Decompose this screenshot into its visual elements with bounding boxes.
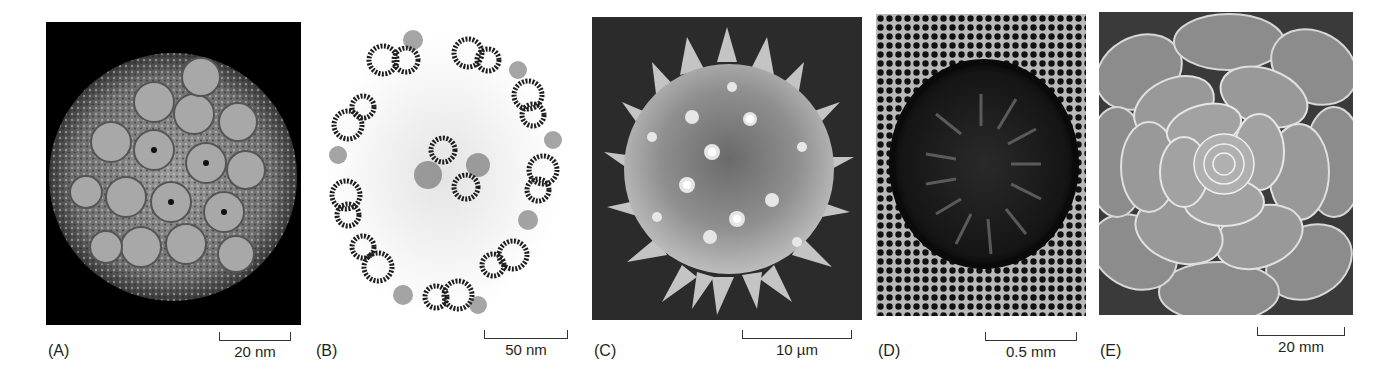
scale-bar-text: 20 mm bbox=[1257, 338, 1345, 355]
panel-c-label: (C) bbox=[594, 342, 616, 360]
scale-bar-line bbox=[219, 332, 291, 341]
panel-a-label: (A) bbox=[48, 342, 69, 360]
scale-bar-line bbox=[484, 330, 568, 339]
scale-bar-line bbox=[985, 332, 1077, 341]
panel-d-stem-section-image bbox=[876, 14, 1086, 316]
scale-bar-text: 20 nm bbox=[219, 343, 291, 360]
scale-bar-text: 10 µm bbox=[742, 341, 852, 358]
scale-bar-text: 50 nm bbox=[484, 341, 568, 358]
panel-b-axoneme-image bbox=[318, 15, 563, 323]
panel-b-label: (B) bbox=[316, 342, 337, 360]
panel-e-label: (E) bbox=[1100, 342, 1121, 360]
panel-a-virus-image bbox=[46, 22, 301, 325]
scale-bar-line bbox=[1257, 327, 1345, 336]
panel-c-pollen-image bbox=[592, 17, 862, 320]
panel-e-succulent-image bbox=[1099, 12, 1353, 315]
scale-bar-line bbox=[742, 330, 852, 339]
panel-d-label: (D) bbox=[878, 342, 900, 360]
scale-bar-text: 0.5 mm bbox=[985, 343, 1077, 360]
